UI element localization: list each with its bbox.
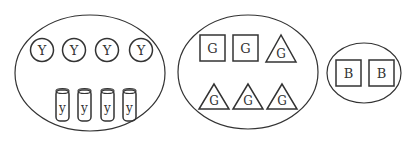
cylinder-shape: y: [78, 89, 91, 122]
cylinder-shape: y: [56, 89, 69, 122]
circle-label: Y: [136, 43, 146, 58]
group-b-ellipse: [327, 43, 401, 103]
triangle-shape: G: [267, 84, 297, 109]
triangle-shape: G: [199, 84, 229, 109]
circle-label: Y: [102, 43, 112, 58]
square-label: G: [207, 41, 217, 56]
triangle-label: G: [276, 47, 286, 61]
group-y-ellipse: [15, 15, 165, 131]
square-label: B: [377, 66, 387, 81]
circle-shape: Y: [31, 39, 54, 62]
triangle-label: G: [209, 94, 219, 108]
group-b: B B: [327, 43, 401, 103]
square-shape: G: [233, 35, 258, 61]
group-y: Y Y Y Y y y y: [15, 15, 165, 131]
circle-shape: Y: [130, 39, 153, 62]
circle-label: Y: [69, 43, 79, 58]
square-shape: B: [336, 60, 361, 86]
cylinder-shape: y: [101, 89, 114, 122]
group-g: G G G G G G: [178, 15, 318, 129]
square-label: G: [240, 41, 250, 56]
triangle-shape: G: [266, 35, 296, 62]
square-shape: B: [369, 60, 394, 86]
set-diagram: Y Y Y Y y y y: [0, 0, 415, 144]
cylinder-label: y: [80, 101, 88, 115]
cylinder-shape: y: [123, 89, 136, 122]
cylinder-label: y: [103, 101, 111, 115]
group-g-ellipse: [178, 15, 318, 129]
triangle-shape: G: [233, 84, 263, 109]
square-shape: G: [200, 35, 225, 61]
circle-shape: Y: [96, 39, 119, 62]
triangle-label: G: [243, 94, 253, 108]
cylinder-label: y: [58, 101, 66, 115]
circle-label: Y: [37, 43, 47, 58]
cylinder-label: y: [125, 101, 133, 115]
triangle-label: G: [277, 94, 287, 108]
circle-shape: Y: [63, 39, 86, 62]
square-label: B: [344, 66, 354, 81]
